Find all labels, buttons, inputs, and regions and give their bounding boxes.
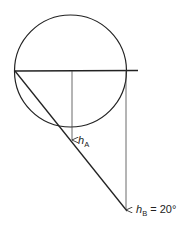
diagonal-line [15, 71, 127, 211]
orbit-angle-diagram: hA hB = 20° [0, 0, 181, 227]
label-h-a: hA [78, 134, 89, 149]
horizontal-line [15, 71, 138, 72]
label-h-b: hB = 20° [136, 203, 176, 218]
